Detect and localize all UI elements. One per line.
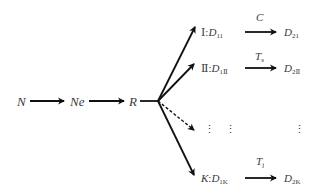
flow-diagram: N Ne R Ⅰ:D11 C D21 Ⅱ:D1Ⅱ Ts D2Ⅱ ⋮ ⋮ ⋮ K:… — [0, 0, 322, 193]
branch-arrow-1 — [158, 27, 195, 101]
branch-row-2: Ⅱ:D1Ⅱ Ts D2Ⅱ — [201, 50, 300, 76]
transform-label: Ts — [255, 50, 264, 64]
target-label: D21 — [283, 26, 299, 40]
transform-label: C — [256, 11, 264, 23]
target-label: D2Ⅱ — [283, 62, 300, 76]
branch-class-label: Ⅰ:D11 — [201, 26, 224, 40]
branch-arrow-dashed — [158, 101, 194, 130]
branch-arrow-k — [158, 101, 194, 175]
transform-label: Tj — [256, 155, 264, 169]
branch-row-k: K:D1K Tj D2K — [200, 155, 301, 186]
branch-class-label: K:D1K — [200, 172, 228, 186]
node-r: R — [128, 94, 137, 109]
target-label: D2K — [283, 172, 301, 186]
branch-arrow-2 — [158, 64, 194, 101]
ellipsis-row: ⋮ ⋮ ⋮ — [204, 123, 305, 135]
branch-row-1: Ⅰ:D11 C D21 — [201, 11, 299, 40]
ellipsis-target: ⋮ — [294, 123, 305, 135]
branch-class-label: Ⅱ:D1Ⅱ — [201, 62, 228, 76]
ellipsis-source: ⋮ — [225, 123, 236, 135]
ellipsis-class: ⋮ — [204, 123, 215, 135]
node-n: N — [16, 94, 27, 109]
node-ne: Ne — [69, 94, 85, 109]
